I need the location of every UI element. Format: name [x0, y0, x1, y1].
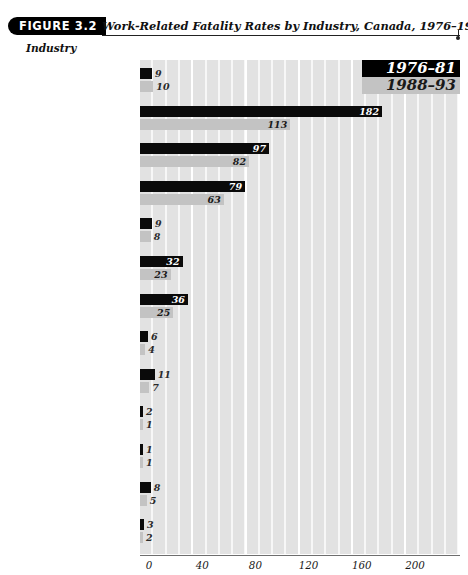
bar-row: 2 — [140, 406, 460, 417]
bar-series1: 9 — [140, 68, 152, 79]
bar-row: 3 — [140, 519, 460, 530]
bar-series2: 1 — [140, 419, 143, 430]
bar-row: 9 — [140, 218, 460, 229]
bar-series1: 3 — [140, 519, 144, 530]
x-axis-line — [140, 555, 460, 556]
bar-value-label: 10 — [156, 81, 169, 92]
bar-row: 10 — [140, 81, 460, 92]
title-underline — [102, 35, 460, 36]
bar-row: 6 — [140, 331, 460, 342]
bar-value-label: 25 — [157, 307, 170, 318]
bar-value-label: 1 — [146, 444, 153, 455]
bar-row: 7 — [140, 382, 460, 393]
bar-row: 97 — [140, 143, 460, 154]
bar-series1: 1 — [140, 444, 143, 455]
x-tick-label: 120 — [299, 559, 319, 571]
bar-value-label: 6 — [151, 331, 158, 342]
bar-row: 8 — [140, 231, 460, 242]
x-tick-label: 80 — [249, 559, 262, 571]
figure-title: Work-Related Fatality Rates by Industry,… — [102, 17, 468, 35]
bar-row: 23 — [140, 269, 460, 280]
x-tick-label: 200 — [405, 559, 425, 571]
bar-row: 63 — [140, 194, 460, 205]
bar-value-label: 2 — [146, 406, 153, 417]
bar-value-label: 182 — [359, 106, 379, 117]
bar-row: 1 — [140, 419, 460, 430]
figure-header: FIGURE 3.2 Work-Related Fatality Rates b… — [8, 17, 460, 37]
bar-value-label: 23 — [154, 269, 167, 280]
bar-value-label: 82 — [233, 156, 246, 167]
bar-value-label: 8 — [154, 231, 161, 242]
bar-series1: 11 — [140, 369, 155, 380]
bar-series2: 4 — [140, 344, 145, 355]
bar-row: 113 — [140, 119, 460, 130]
bar-value-label: 36 — [172, 294, 185, 305]
bar-value-label: 11 — [158, 369, 171, 380]
bar-row: 11 — [140, 369, 460, 380]
chart-plot-area: 1976–81 1988–93 Agriculture910Fishing/Tr… — [140, 60, 460, 554]
bar-row: 182 — [140, 106, 460, 117]
bar-row: 79 — [140, 181, 460, 192]
bar-series1: 182 — [140, 106, 382, 117]
bar-series1: 6 — [140, 331, 148, 342]
bar-series1: 97 — [140, 143, 269, 154]
bar-series1: 8 — [140, 482, 151, 493]
bar-value-label: 5 — [150, 495, 157, 506]
bar-value-label: 97 — [253, 143, 266, 154]
x-tick-label: 40 — [196, 559, 209, 571]
bar-series2: 2 — [140, 532, 143, 543]
bar-series2: 25 — [140, 307, 173, 318]
y-axis-group-label: Industry — [26, 42, 76, 54]
bar-row: 25 — [140, 307, 460, 318]
bar-row: 32 — [140, 256, 460, 267]
bar-series1: 2 — [140, 406, 143, 417]
bar-series2: 7 — [140, 382, 149, 393]
figure-number-badge: FIGURE 3.2 — [8, 17, 106, 35]
bar-row: 1 — [140, 444, 460, 455]
bar-row: 36 — [140, 294, 460, 305]
bar-series2: 63 — [140, 194, 224, 205]
bar-value-label: 7 — [152, 382, 159, 393]
bar-row: 4 — [140, 344, 460, 355]
bar-series2: 82 — [140, 156, 249, 167]
bar-series1: 32 — [140, 256, 183, 267]
bar-value-label: 113 — [267, 119, 287, 130]
bar-value-label: 32 — [166, 256, 179, 267]
x-tick-label: 0 — [146, 559, 153, 571]
bar-row: 8 — [140, 482, 460, 493]
bar-value-label: 4 — [148, 344, 155, 355]
bar-series2: 10 — [140, 81, 153, 92]
bar-row: 5 — [140, 495, 460, 506]
bar-value-label: 63 — [208, 194, 221, 205]
title-rule-end-dot — [456, 36, 460, 40]
bar-row: 82 — [140, 156, 460, 167]
bar-series2: 1 — [140, 457, 143, 468]
bar-row: 9 — [140, 68, 460, 79]
bar-series1: 79 — [140, 181, 245, 192]
bar-series2: 23 — [140, 269, 171, 280]
bar-value-label: 3 — [147, 519, 154, 530]
bar-series1: 36 — [140, 294, 188, 305]
bar-value-label: 2 — [146, 532, 153, 543]
bar-row: 2 — [140, 532, 460, 543]
bar-value-label: 9 — [155, 68, 162, 79]
bar-series2: 113 — [140, 119, 290, 130]
bar-value-label: 79 — [229, 181, 242, 192]
bar-value-label: 8 — [154, 482, 161, 493]
x-tick-label: 160 — [352, 559, 372, 571]
bar-value-label: 1 — [146, 419, 153, 430]
bar-series1: 9 — [140, 218, 152, 229]
bar-series2: 5 — [140, 495, 147, 506]
bar-value-label: 9 — [155, 218, 162, 229]
bar-value-label: 1 — [146, 457, 153, 468]
bar-row: 1 — [140, 457, 460, 468]
bar-series2: 8 — [140, 231, 151, 242]
